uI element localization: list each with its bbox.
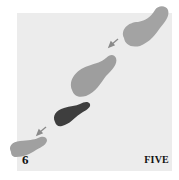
footprint-2 xyxy=(71,55,116,97)
arrow-icon xyxy=(109,39,118,47)
step-name: FIVE xyxy=(144,154,169,165)
step-number: 6 xyxy=(22,152,29,168)
footprint-3 xyxy=(54,102,90,126)
footprint-1 xyxy=(123,6,169,46)
arrow-icon xyxy=(37,127,46,135)
